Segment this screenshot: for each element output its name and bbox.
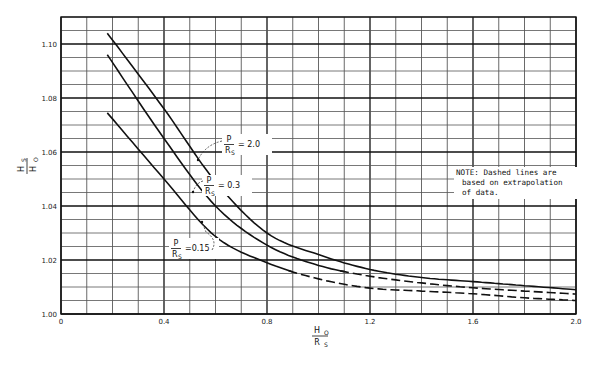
y-tick-label: 1.10 [41, 41, 57, 49]
label-subscript: S [211, 190, 215, 197]
grid [61, 17, 576, 314]
label-p-rs-0-3: PRS= 0.3 [202, 175, 252, 197]
label-subscript: S [178, 253, 182, 260]
label-numerator: P [227, 135, 232, 144]
label-p-rs-2-0: PRS= 2.0 [222, 134, 272, 156]
x-tick-label: 1.6 [467, 318, 479, 326]
y-tick-label: 1.08 [41, 95, 57, 103]
leader-arrowhead [197, 159, 199, 161]
axis-label-num: H [17, 166, 26, 172]
leader-arrowhead [192, 191, 194, 193]
leader-2-0 [198, 141, 222, 160]
label-value: =0.15 [185, 244, 210, 253]
axis-label-num-sub: S [20, 158, 27, 162]
label-numerator: P [174, 239, 179, 248]
x-tick-label: 0 [59, 318, 63, 326]
y-tick-label: 1.06 [41, 149, 57, 157]
axis-label-den: R [314, 338, 320, 347]
axis-label-den-sub: S [324, 341, 328, 348]
y-axis-label: HSHO [17, 157, 39, 174]
axis-label-num: H [314, 326, 320, 335]
label-value: = 2.0 [238, 140, 260, 149]
x-tick-label: 0.8 [261, 318, 272, 326]
y-tick-label: 1.04 [41, 203, 57, 211]
note-line-1: NOTE: Dashed lines are [456, 168, 576, 178]
note-box: NOTE: Dashed lines are based on extrapol… [454, 167, 578, 199]
leader-arrowhead [201, 221, 203, 223]
curve-dashed-1 [340, 271, 576, 294]
label-p-rs-0-15: PRS=0.15 [169, 238, 219, 260]
x-tick-label: 0.4 [158, 318, 170, 326]
axis-label-den: H [29, 166, 38, 172]
note-line-2: based on extrapolation [456, 178, 576, 188]
note-line-3: of data. [456, 188, 576, 198]
axis-label-num-sub: O [324, 329, 329, 336]
curve-solid-1 [107, 55, 344, 272]
label-numerator: P [207, 176, 212, 185]
x-tick-label: 2.0 [570, 318, 581, 326]
y-tick-label: 1.02 [41, 257, 57, 265]
label-subscript: S [231, 149, 235, 156]
x-tick-label: 1.2 [364, 318, 375, 326]
x-axis-label: HORS [312, 326, 329, 348]
label-value: = 0.3 [218, 181, 240, 190]
axis-label-den-sub: O [32, 157, 39, 162]
curve-dashed-2 [289, 271, 577, 301]
y-tick-label: 1.00 [41, 311, 57, 319]
